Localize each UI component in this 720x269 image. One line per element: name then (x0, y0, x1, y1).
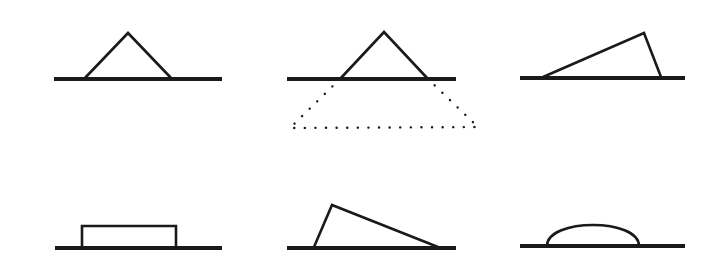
diagram-svg (0, 0, 720, 269)
diagram-canvas (0, 0, 720, 269)
background (0, 0, 720, 269)
